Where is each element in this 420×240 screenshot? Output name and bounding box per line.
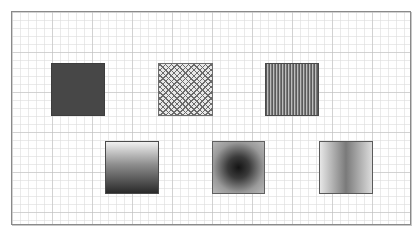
solid-fill-square[interactable]	[51, 63, 105, 116]
radial-gradient-square[interactable]	[212, 141, 265, 194]
vertical-linear-gradient-square[interactable]	[105, 141, 159, 194]
vertical-stripes-pattern-square[interactable]	[265, 63, 319, 116]
crosshatch-pattern-square[interactable]	[158, 63, 213, 116]
horizontal-gradient-square[interactable]	[319, 141, 373, 194]
